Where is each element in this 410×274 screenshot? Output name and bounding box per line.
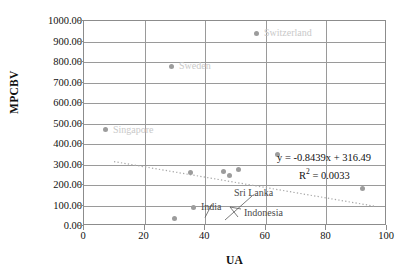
y-tick-label-1000: 1000.00 (26, 15, 82, 26)
data-point-mid-1[interactable] (188, 170, 193, 175)
sweden-label: Sweden (179, 60, 211, 71)
x-tick-label-100: 100 (371, 230, 401, 241)
x-tick-label-0: 0 (68, 230, 98, 241)
y-tick-label-700: 700.00 (26, 77, 82, 88)
r-squared-value: = 0.0033 (312, 170, 349, 181)
data-point-indonesia[interactable] (221, 169, 226, 174)
plot-area: Switzerland Sweden Singapore Sri Lanka I… (83, 20, 386, 225)
india-label: India (201, 201, 222, 212)
data-point-sri-lanka[interactable] (191, 205, 196, 210)
y-tick-label-500: 500.00 (26, 118, 82, 129)
x-axis-title: UA (83, 254, 386, 266)
y-tick-label-400: 400.00 (26, 138, 82, 149)
r-squared-symbol: R (299, 170, 306, 181)
trendline-equation: y = -0.8439x + 316.49 (277, 152, 371, 163)
scatter-chart: MPCBV 1000.00 900.00 800.00 700.00 600.0… (0, 0, 410, 274)
x-tick-label-60: 60 (250, 230, 280, 241)
data-point-singapore[interactable] (103, 127, 108, 132)
y-tick-label-200: 200.00 (26, 179, 82, 190)
x-tick-label-80: 80 (310, 230, 340, 241)
indonesia-label: Indonesia (244, 207, 283, 218)
y-tick-label-800: 800.00 (26, 56, 82, 67)
x-tick-label-20: 20 (129, 230, 159, 241)
y-tick-label-300: 300.00 (26, 159, 82, 170)
trendline-r-squared: R2 = 0.0033 (299, 167, 350, 181)
y-tick-label-600: 600.00 (26, 97, 82, 108)
x-tick-label-40: 40 (189, 230, 219, 241)
sri-lanka-label: Sri Lanka (234, 187, 273, 198)
y-axis-title: MPCBV (8, 90, 20, 114)
singapore-label: Singapore (113, 124, 154, 135)
switzerland-label: Switzerland (264, 27, 312, 38)
data-point-far-right[interactable] (360, 186, 365, 191)
y-tick-label-900: 900.00 (26, 36, 82, 47)
r-squared-exponent: 2 (306, 167, 310, 176)
y-tick-label-100: 100.00 (26, 200, 82, 211)
data-point-switzerland[interactable] (254, 31, 259, 36)
